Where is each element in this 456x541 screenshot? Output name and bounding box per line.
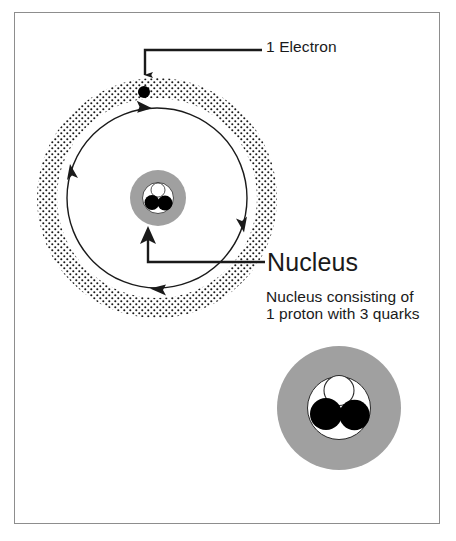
quark-top-small bbox=[151, 183, 165, 197]
quark-bottom-right-large bbox=[339, 400, 369, 430]
nucleus-heading: Nucleus bbox=[267, 248, 358, 276]
electron-label: 1 Electron bbox=[266, 38, 337, 55]
nucleus-caption: Nucleus consisting of 1 proton with 3 qu… bbox=[266, 288, 420, 323]
quark-bottom-left-large bbox=[310, 398, 342, 430]
atom-nucleus bbox=[130, 170, 186, 226]
diagram-graphics bbox=[0, 0, 456, 541]
electron-particle bbox=[138, 86, 150, 98]
nucleus-caption-line-1: Nucleus consisting of bbox=[266, 288, 420, 305]
proton-detail-diagram bbox=[277, 346, 401, 470]
quark-bottom-left-small bbox=[145, 195, 160, 210]
nucleus-caption-line-2: 1 proton with 3 quarks bbox=[266, 305, 420, 322]
electron-cloud-band bbox=[0, 0, 456, 541]
diagram-canvas: 1 Electron Nucleus Nucleus consisting of… bbox=[0, 0, 456, 541]
quark-bottom-right-small bbox=[158, 196, 173, 211]
